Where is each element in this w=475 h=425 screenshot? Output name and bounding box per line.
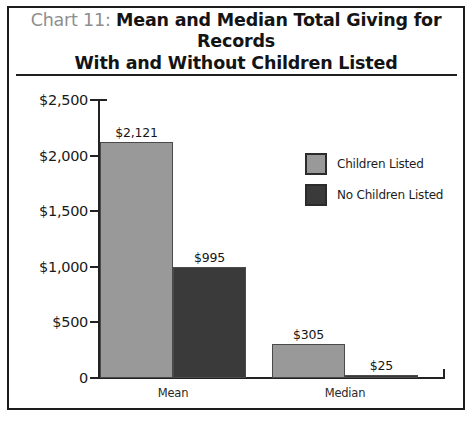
bar-value-label: $2,121: [88, 125, 185, 140]
y-axis-tick-label: $500: [16, 314, 88, 330]
y-axis-tick: [90, 266, 99, 268]
legend-swatch-no-children-listed: [305, 184, 327, 206]
legend-label: No Children Listed: [337, 188, 443, 202]
legend-swatch-children-listed: [305, 153, 327, 175]
bar: [345, 375, 418, 378]
y-axis-tick: [90, 210, 99, 212]
y-axis-tick-label: $2,000: [16, 148, 88, 164]
y-axis-top-cap: [98, 99, 107, 101]
y-axis-tick: [90, 321, 99, 323]
bar-value-label: $305: [260, 327, 357, 342]
chart-figure: Chart 11: Mean and Median Total Giving f…: [0, 0, 475, 425]
x-axis-category-label: Median: [272, 386, 418, 400]
bar: [173, 267, 246, 378]
y-axis-tick: [90, 377, 99, 379]
x-axis-category-label: Mean: [100, 386, 246, 400]
y-axis-tick: [90, 99, 99, 101]
bar-value-label: $995: [161, 250, 258, 265]
legend-item: No Children Listed: [305, 184, 443, 206]
y-axis-tick-label: $2,500: [16, 92, 88, 108]
plot-area: 0$500$1,000$1,500$2,000$2,500 $2,121$995…: [0, 0, 475, 425]
y-axis-tick: [90, 155, 99, 157]
chart-legend: Children Listed No Children Listed: [305, 153, 443, 215]
y-axis-tick-label: 0: [16, 370, 88, 386]
bar-value-label: $25: [333, 358, 430, 373]
y-axis-tick-label: $1,000: [16, 259, 88, 275]
x-axis-right-cap: [443, 369, 445, 379]
legend-item: Children Listed: [305, 153, 443, 175]
y-axis-tick-label: $1,500: [16, 203, 88, 219]
legend-label: Children Listed: [337, 157, 424, 171]
